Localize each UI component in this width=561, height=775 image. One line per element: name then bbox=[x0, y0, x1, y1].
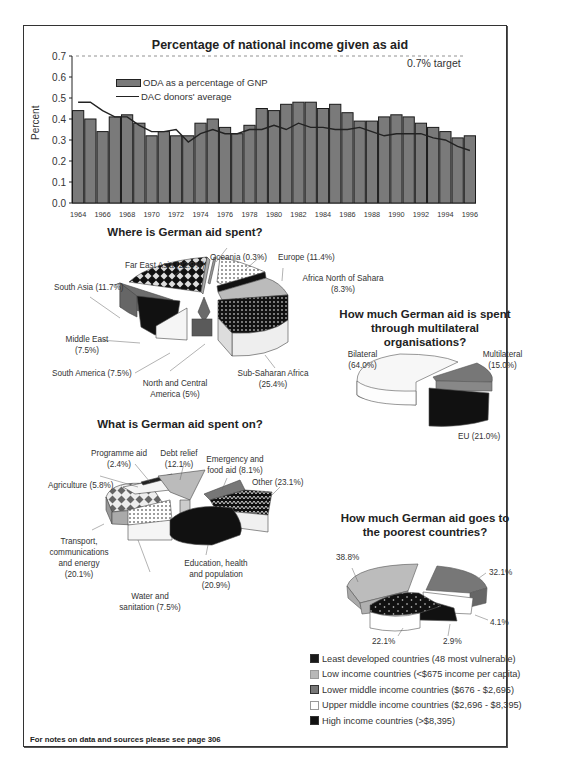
legend-swatch bbox=[310, 716, 319, 725]
label-debt-line2: (12.1%) bbox=[154, 459, 204, 470]
legend-label: Least developed countries (48 most vulne… bbox=[322, 654, 516, 664]
label-multilateral-line2: (15.0%) bbox=[475, 360, 530, 371]
label-water-line1: Water and bbox=[110, 591, 190, 602]
label-lower-middle: 32.1% bbox=[489, 567, 512, 578]
label-multilateral: Multilateral (15.0%) bbox=[475, 349, 530, 371]
legend-label: High income countries (>$8,395) bbox=[322, 716, 455, 726]
label-low-income: 38.8% bbox=[336, 552, 359, 563]
poorest-title-line1: How much German aid goes to bbox=[325, 511, 525, 525]
label-middle-east: Middle East (7.5%) bbox=[62, 334, 112, 356]
legend-swatch bbox=[310, 654, 319, 663]
legend-label: Lower middle income countries ($676 - $2… bbox=[322, 685, 514, 695]
label-africa-north: Africa North of Sahara (8.3%) bbox=[288, 273, 398, 295]
label-programme-aid: Programme aid (2.4%) bbox=[84, 448, 154, 470]
legend-label: Upper middle income countries ($2,696 - … bbox=[322, 700, 522, 710]
label-europe: Europe (11.4%) bbox=[278, 252, 335, 263]
label-education-line3: (20.9%) bbox=[176, 580, 256, 591]
label-debt-line1: Debt relief bbox=[154, 448, 204, 459]
label-transport-line2: communications bbox=[44, 547, 114, 558]
multilateral-title-line3: organisations? bbox=[325, 335, 525, 349]
legend-label: Low income countries (<$675 income per c… bbox=[322, 669, 520, 679]
label-bilateral-line2: (64.0%) bbox=[340, 360, 385, 371]
label-transport-line4: (20.1%) bbox=[44, 569, 114, 580]
spent-on-title: What is German aid spent on? bbox=[90, 418, 270, 430]
label-ssa-line2: (25.4%) bbox=[228, 379, 318, 390]
label-education-line1: Education, health bbox=[176, 558, 256, 569]
legend-low-income: Low income countries (<$675 income per c… bbox=[310, 667, 522, 683]
label-programme-line1: Programme aid bbox=[84, 448, 154, 459]
label-emergency-line2: food aid (8.1%) bbox=[200, 465, 270, 476]
poorest-title-line2: the poorest countries? bbox=[325, 525, 525, 539]
label-emergency-line1: Emergency and bbox=[200, 454, 270, 465]
multilateral-title-line1: How much German aid is spent bbox=[325, 307, 525, 321]
label-nca-line2: America (5%) bbox=[130, 389, 220, 400]
label-oceania: Oceania (0.3%) bbox=[210, 252, 267, 263]
legend-swatch bbox=[310, 701, 319, 710]
label-bilateral-line1: Bilateral bbox=[340, 349, 385, 360]
label-sub-saharan-africa: Sub-Saharan Africa (25.4%) bbox=[228, 368, 318, 390]
label-south-asia: South Asia (11.7%) bbox=[54, 282, 123, 293]
label-africa-north-line1: Africa North of Sahara bbox=[288, 273, 398, 284]
label-transport-line3: and energy bbox=[44, 558, 114, 569]
legend-least-developed: Least developed countries (48 most vulne… bbox=[310, 651, 522, 667]
legend-upper-middle: Upper middle income countries ($2,696 - … bbox=[310, 698, 522, 714]
label-north-central-america: North and Central America (5%) bbox=[130, 378, 220, 400]
label-nca-line1: North and Central bbox=[130, 378, 220, 389]
label-water: Water and sanitation (7.5%) bbox=[110, 591, 190, 613]
label-transport: Transport, communications and energy (20… bbox=[44, 536, 114, 580]
label-south-america: South America (7.5%) bbox=[52, 368, 132, 379]
legend-swatch bbox=[310, 685, 319, 694]
label-middle-east-line2: (7.5%) bbox=[62, 345, 112, 356]
label-ssa-line1: Sub-Saharan Africa bbox=[228, 368, 318, 379]
poorest-legend: Least developed countries (48 most vulne… bbox=[310, 651, 522, 729]
label-water-line2: sanitation (7.5%) bbox=[110, 602, 190, 613]
multilateral-title: How much German aid is spent through mul… bbox=[325, 307, 525, 349]
label-eu: EU (21.0%) bbox=[458, 431, 500, 442]
label-high: 2.9% bbox=[443, 636, 462, 647]
legend-high-income: High income countries (>$8,395) bbox=[310, 713, 522, 729]
legend-swatch bbox=[310, 670, 319, 679]
label-least: 22.1% bbox=[372, 636, 395, 647]
poorest-title: How much German aid goes to the poorest … bbox=[325, 511, 525, 539]
label-multilateral-line1: Multilateral bbox=[475, 349, 530, 360]
label-far-east-asia: Far East Asia (22.9%) bbox=[125, 260, 205, 271]
label-emergency: Emergency and food aid (8.1%) bbox=[200, 454, 270, 476]
label-education-line2: and population bbox=[176, 569, 256, 580]
label-africa-north-line2: (8.3%) bbox=[288, 284, 398, 295]
label-other: Other (23.1%) bbox=[252, 477, 303, 488]
label-programme-line2: (2.4%) bbox=[84, 459, 154, 470]
label-upper-middle: 4.1% bbox=[490, 617, 509, 628]
legend-lower-middle: Lower middle income countries ($676 - $2… bbox=[310, 682, 522, 698]
label-transport-line1: Transport, bbox=[44, 536, 114, 547]
label-middle-east-line1: Middle East bbox=[62, 334, 112, 345]
footer-note: For notes on data and sources please see… bbox=[30, 735, 221, 744]
label-agriculture: Agriculture (5.8%) bbox=[48, 480, 114, 491]
label-debt-relief: Debt relief (12.1%) bbox=[154, 448, 204, 470]
label-bilateral: Bilateral (64.0%) bbox=[340, 349, 385, 371]
multilateral-title-line2: through multilateral bbox=[325, 321, 525, 335]
label-education: Education, health and population (20.9%) bbox=[176, 558, 256, 591]
